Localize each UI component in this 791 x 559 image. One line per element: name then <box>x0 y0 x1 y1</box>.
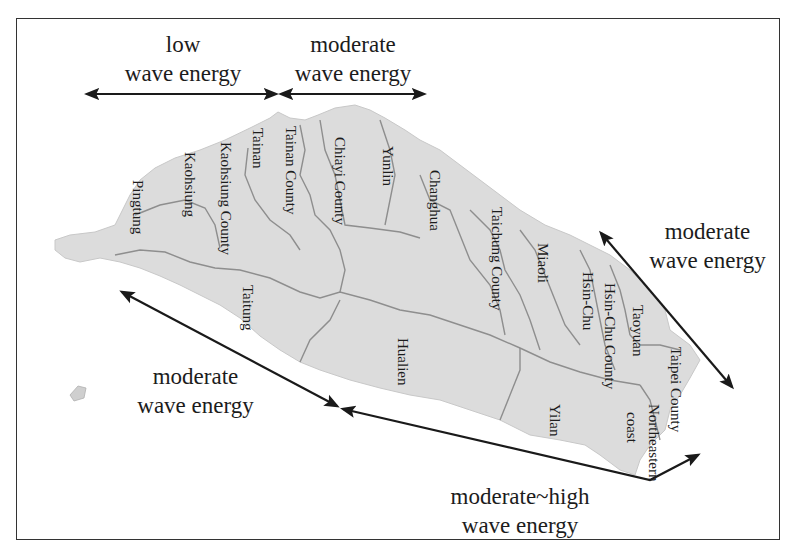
zone-line1: low <box>118 30 248 59</box>
zone-line1: moderate <box>128 362 263 391</box>
zone-line1: moderate <box>640 217 775 246</box>
zone-label-low: low wave energy <box>118 30 248 88</box>
zone-line2: wave energy <box>128 391 263 420</box>
zone-label-moderate-right: moderate wave energy <box>640 217 775 275</box>
region-label: Changhua <box>427 170 443 231</box>
zone-line2: wave energy <box>283 59 423 88</box>
region-label: Pingtung <box>130 180 146 234</box>
zone-line1: moderate~high <box>440 482 600 511</box>
zone-label-moderate-left: moderate wave energy <box>128 362 263 420</box>
zone-line2: wave energy <box>118 59 248 88</box>
zone-line2: wave energy <box>640 246 775 275</box>
island <box>70 386 86 401</box>
zone-line1: moderate <box>283 30 423 59</box>
region-label: Northeastern <box>646 404 662 481</box>
zone-label-moderate-top: moderate wave energy <box>283 30 423 88</box>
region-label: Taipei County <box>668 347 684 432</box>
region-label: Tainan County <box>283 126 299 215</box>
region-label: Kaohsiung <box>182 152 198 217</box>
zone-label-moderate-high: moderate~high wave energy <box>440 482 600 540</box>
region-label: Hualien <box>395 338 411 385</box>
region-label: Taitung <box>240 285 256 331</box>
region-label: Taoyuan <box>630 305 646 356</box>
zone-line2: wave energy <box>440 511 600 540</box>
region-label: Tainan <box>250 128 266 169</box>
region-label: Chiayi County <box>332 137 348 225</box>
region-label: Yunlin <box>380 146 396 186</box>
region-label: Yilan <box>547 404 563 437</box>
region-label: coast <box>624 412 640 443</box>
region-label: Miaoli <box>535 243 551 283</box>
region-label: Kaohsiung County <box>218 142 234 255</box>
region-label: Hsin-Chu County <box>602 283 618 389</box>
region-label: Hsin-Chu <box>580 272 596 330</box>
region-label: Taichung County <box>489 207 505 311</box>
